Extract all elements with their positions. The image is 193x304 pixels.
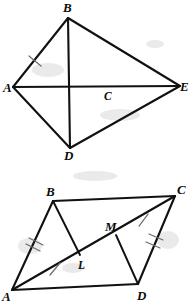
segment-BC-bottom bbox=[53, 196, 175, 201]
segment-BE bbox=[68, 18, 180, 86]
vertex-label-A-top: A bbox=[2, 80, 12, 95]
vertex-label-E-top: E bbox=[179, 79, 189, 94]
vertex-label-B-bottom: B bbox=[45, 184, 55, 199]
vertex-label-L-bottom: L bbox=[77, 259, 85, 271]
segment-DA bbox=[13, 87, 70, 148]
vertex-label-D-bottom: D bbox=[136, 288, 147, 303]
segment-MD-bottom bbox=[116, 235, 138, 284]
segment-BL-bottom bbox=[53, 201, 80, 255]
segment-DA-bottom bbox=[12, 284, 138, 290]
figure-top: A B C D E bbox=[2, 0, 189, 163]
paper-artifacts bbox=[18, 40, 179, 273]
segment-BD bbox=[68, 18, 70, 148]
geometry-figures-root: A B C D E bbox=[0, 0, 193, 304]
segment-AE bbox=[13, 86, 180, 87]
vertex-label-A-bottom: A bbox=[1, 289, 11, 304]
vertex-label-M-bottom: M bbox=[104, 219, 117, 234]
vertex-label-C-top: C bbox=[104, 90, 112, 102]
segment-AB bbox=[13, 18, 68, 87]
vertex-label-B-top: B bbox=[62, 0, 72, 15]
figures-canvas: A B C D E bbox=[0, 0, 193, 304]
vertex-label-C-bottom: C bbox=[177, 182, 186, 197]
segment-ED bbox=[70, 86, 180, 148]
vertex-label-D-top: D bbox=[63, 148, 74, 163]
